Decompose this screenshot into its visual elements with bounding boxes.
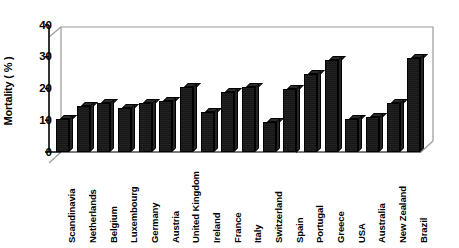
x-label-italy: Italy	[252, 224, 263, 243]
x-label-new-zealand: New Zealand	[397, 186, 408, 243]
x-label-australia: Australia	[376, 203, 387, 243]
x-label-switzerland: Switzerland	[273, 191, 284, 243]
x-label-united-kingdom: United Kingdom	[190, 171, 201, 243]
x-label-france: France	[232, 212, 243, 243]
x-label-spain: Spain	[294, 218, 305, 243]
x-label-greece: Greece	[335, 211, 346, 243]
x-axis-category-labels: ScandinaviaNetherlandsBelgiumLuxembourgG…	[0, 0, 459, 248]
x-label-luxembourg: Luxembourg	[128, 186, 139, 243]
x-label-austria: Austria	[170, 211, 181, 243]
x-label-portugal: Portugal	[314, 205, 325, 243]
chart-screenshot: Mortality ( % ) 0 10 20 30 40 Scandinavi…	[0, 0, 459, 248]
x-label-netherlands: Netherlands	[87, 189, 98, 243]
x-label-ireland: Ireland	[211, 213, 222, 243]
x-label-usa: USA	[356, 223, 367, 243]
x-label-belgium: Belgium	[108, 206, 119, 243]
x-label-brazil: Brazil	[418, 218, 429, 243]
x-label-germany: Germany	[149, 203, 160, 244]
x-label-scandinavia: Scandinavia	[66, 189, 77, 243]
